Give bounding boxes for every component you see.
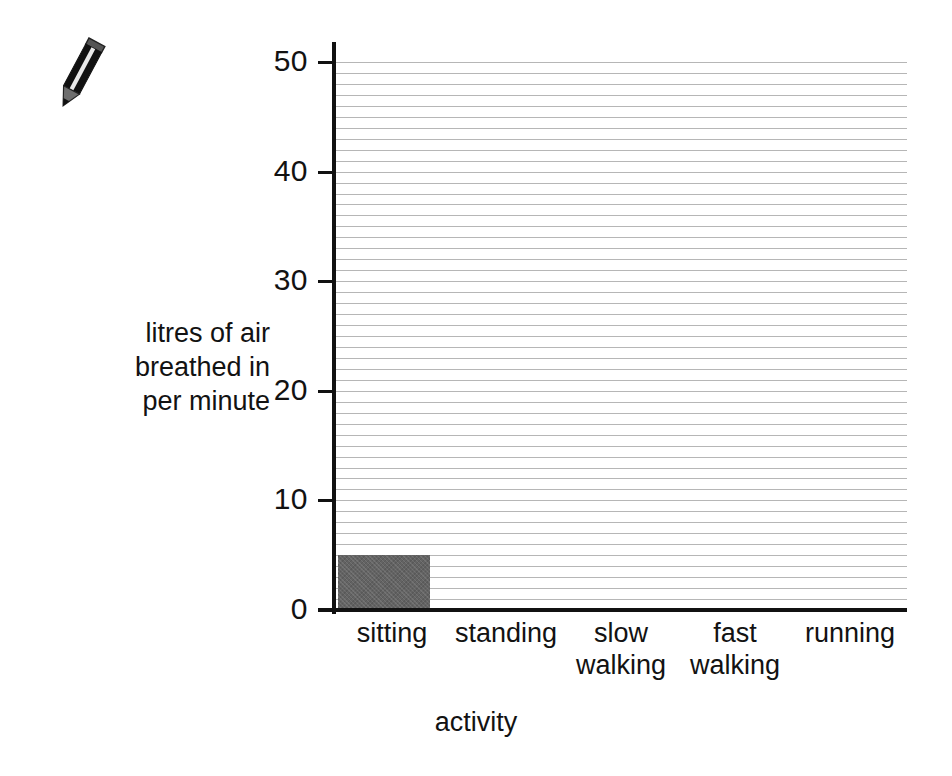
chart-page: 01020304050 litres of airbreathed inper …	[0, 0, 952, 776]
y-axis-title-line: per minute	[62, 384, 270, 418]
x-axis-tick-labels: sittingstandingslowwalkingfastwalkingrun…	[335, 617, 907, 687]
x-axis-tick-label: running	[779, 617, 921, 649]
bar-chart: 01020304050 litres of airbreathed inper …	[0, 0, 952, 776]
plot-area	[335, 42, 907, 610]
bars-layer	[335, 42, 907, 610]
y-axis-title-line: litres of air	[62, 316, 270, 350]
x-axis-tick-label-line: walking	[664, 649, 806, 681]
y-axis-tick	[318, 280, 336, 283]
x-axis-line	[318, 608, 907, 612]
y-axis-tick	[318, 609, 336, 612]
y-axis-title: litres of airbreathed inper minute	[62, 316, 270, 418]
y-axis-tick-label: 10	[236, 484, 308, 514]
bar-sitting	[338, 555, 430, 610]
y-axis-tick	[318, 499, 336, 502]
y-axis-tick-label: 40	[236, 156, 308, 186]
y-axis-tick	[318, 61, 336, 64]
y-axis-tick-label: 30	[236, 265, 308, 295]
x-axis-title: activity	[0, 706, 952, 738]
y-axis-tick	[318, 171, 336, 174]
y-axis-line	[332, 42, 336, 614]
y-axis-title-line: breathed in	[62, 350, 270, 384]
y-axis-tick	[318, 390, 336, 393]
y-axis-tick-label: 50	[236, 46, 308, 76]
x-axis-tick-label-line: running	[779, 617, 921, 649]
y-axis-tick-label: 0	[236, 594, 308, 624]
